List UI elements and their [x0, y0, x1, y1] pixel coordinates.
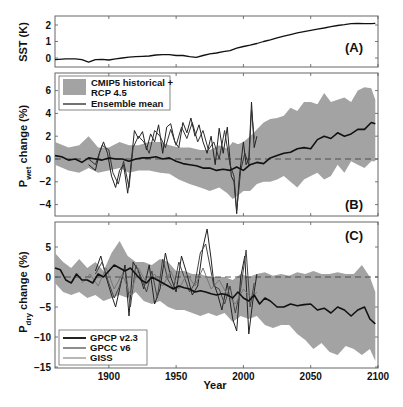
y-tick-label: 0 — [45, 53, 51, 64]
y-tick-label: −4 — [40, 199, 52, 210]
panel-b-label: (B) — [345, 197, 363, 212]
x-axis-tick-labels: 19001950200020502100 — [98, 371, 390, 382]
panel-a-ylabel: SST (K) — [17, 22, 29, 62]
x-tick-label: 2050 — [300, 371, 323, 382]
figure: 012 (A) SST (K) −4−20246 (B) Pwet change… — [0, 0, 403, 407]
panel-c-legend: GPCP v2.3 GPCC v6 GISS — [59, 330, 147, 365]
panel-b-legend: CMIP5 historical + RCP 4.5 Ensemble mean — [59, 76, 174, 110]
y-tick-label: 2 — [45, 131, 51, 142]
panel-c: −15−10−505 (C) Pdry change (%) GPCP v2.3… — [17, 222, 378, 373]
y-tick-label: 0 — [45, 154, 51, 165]
x-tick-label: 1900 — [98, 371, 121, 382]
panel-c-ylabel: Pdry change (%) — [17, 251, 33, 333]
y-tick-label: 4 — [45, 108, 51, 119]
panel-b: −4−20246 (B) Pwet change (%) CMIP5 histo… — [17, 73, 378, 216]
y-tick-label: 0 — [45, 272, 51, 283]
y-tick-label: −5 — [40, 302, 52, 313]
y-tick-label: −10 — [34, 332, 51, 343]
y-tick-label: 5 — [45, 242, 51, 253]
y-tick-label: 1 — [45, 36, 51, 47]
y-tick-label: 6 — [45, 85, 51, 96]
y-tick-label: −2 — [40, 176, 52, 187]
panel-a: 012 (A) SST (K) — [17, 16, 378, 67]
y-tick-label: −15 — [34, 362, 51, 373]
panel-c-label: (C) — [345, 228, 363, 243]
x-tick-label: 2000 — [232, 371, 255, 382]
x-tick-label: 2100 — [367, 371, 390, 382]
panel-a-label: (A) — [345, 40, 363, 55]
x-axis-label: Year — [203, 379, 227, 391]
y-tick-label: 2 — [45, 20, 51, 31]
legend-band-swatch — [63, 79, 86, 95]
legend-band-label-2: RCP 4.5 — [91, 87, 127, 98]
legend-giss-label: GISS — [90, 352, 113, 363]
panel-b-ylabel: Pwet change (%) — [17, 104, 33, 187]
x-tick-label: 1950 — [165, 371, 188, 382]
legend-mean-label: Ensemble mean — [91, 98, 164, 109]
